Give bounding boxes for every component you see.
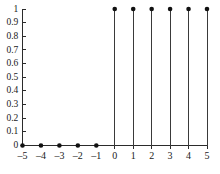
data-point-marker [94,143,99,148]
y-tick-label: 0 [14,140,19,150]
x-tick-label: –3 [53,150,64,161]
y-tick-label: 0.9 [6,17,18,27]
y-tick-labels: 00.10.20.30.40.50.60.70.80.91 [6,4,18,151]
y-tick-label: 0.2 [6,113,18,123]
x-tick-label: –4 [35,150,46,161]
data-point-marker [149,7,154,12]
x-tick-label: 1 [131,150,136,161]
data-point-marker [131,7,136,12]
data-stems [115,9,207,146]
x-tick-label: –2 [72,150,83,161]
data-point-marker [186,7,191,12]
y-tick-label: 0.8 [6,31,18,41]
x-tick-label: 4 [186,150,191,161]
x-tick-labels: –5–4–3–2–1012345 [17,150,210,161]
x-tick-label: 2 [149,150,154,161]
y-tick-label: 0.5 [6,72,18,82]
y-tick-label: 0.3 [6,99,18,109]
y-tick-label: 0.7 [6,45,18,55]
plot-canvas: 00.10.20.30.40.50.60.70.80.91 –5–4–3–2–1… [0,0,220,174]
x-tick-label: 5 [205,150,210,161]
x-tick-label: 3 [168,150,173,161]
y-axis [23,9,26,146]
x-tick-label: –5 [17,150,28,161]
y-tick-label: 1 [14,4,19,14]
data-point-marker [76,143,81,148]
x-axis [23,146,208,149]
data-point-marker [39,143,44,148]
x-tick-label: –1 [90,150,101,161]
data-point-marker [168,7,173,12]
y-tick-label: 0.1 [6,126,18,136]
data-point-marker [112,7,117,12]
y-tick-label: 0.4 [6,85,18,95]
data-point-marker [205,7,210,12]
y-tick-label: 0.6 [6,58,18,68]
x-tick-label: 0 [112,150,117,161]
data-point-marker [20,143,25,148]
stem-plot-figure: 00.10.20.30.40.50.60.70.80.91 –5–4–3–2–1… [0,0,220,174]
data-point-marker [57,143,62,148]
